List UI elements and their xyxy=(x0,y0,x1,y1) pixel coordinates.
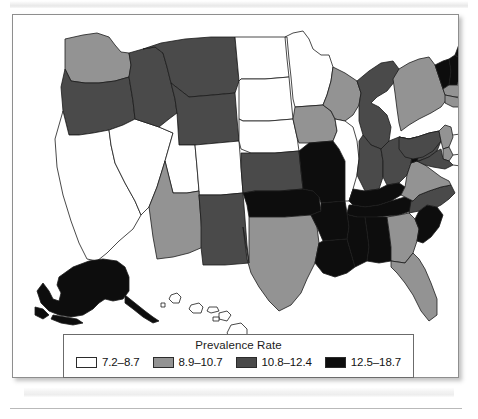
state-TX xyxy=(243,215,319,311)
state-HI-maui xyxy=(219,311,231,321)
legend-title: Prevalence Rate xyxy=(64,338,413,352)
state-FL xyxy=(391,253,437,321)
bottom-rule xyxy=(10,408,462,409)
state-ND xyxy=(235,37,289,81)
legend-swatch-light-gray xyxy=(153,357,174,368)
us-choropleth-map: Prevalence Rate 7.2–8.7 8.9–10.7 10.8–12… xyxy=(13,15,458,377)
state-KS xyxy=(241,151,303,193)
state-NJ xyxy=(439,125,453,149)
state-WA xyxy=(65,33,131,83)
state-AL xyxy=(365,217,391,263)
state-HI-lanai xyxy=(213,317,219,321)
legend-swatch-black xyxy=(325,357,346,368)
legend-swatch-dark-gray xyxy=(236,357,257,368)
caption-ghost xyxy=(24,388,454,397)
legend-label-4: 12.5–18.7 xyxy=(351,356,401,368)
legend-item-4: 12.5–18.7 xyxy=(325,356,401,368)
state-HI-kauai xyxy=(169,293,181,303)
state-AK xyxy=(37,259,129,317)
page-top-band xyxy=(10,1,468,8)
state-NE xyxy=(239,119,299,153)
state-CO xyxy=(195,141,243,195)
state-DE xyxy=(443,147,453,161)
state-OK xyxy=(243,189,321,217)
state-AK-pan xyxy=(125,295,159,323)
state-SD xyxy=(239,77,293,121)
figure-box: Prevalence Rate 7.2–8.7 8.9–10.7 10.8–12… xyxy=(12,14,459,378)
state-HI-molokai xyxy=(207,307,219,313)
state-HI-oahu xyxy=(189,303,203,313)
legend-item-3: 10.8–12.4 xyxy=(236,356,312,368)
legend-item-1: 7.2–8.7 xyxy=(76,356,140,368)
legend-label-2: 8.9–10.7 xyxy=(179,356,223,368)
state-NM xyxy=(199,193,249,265)
legend-label-1: 7.2–8.7 xyxy=(102,356,140,368)
legend-swatch-white xyxy=(76,357,97,368)
state-HI-niihau xyxy=(161,303,165,307)
map-svg xyxy=(13,15,458,377)
legend-label-3: 10.8–12.4 xyxy=(262,356,312,368)
legend-item-2: 8.9–10.7 xyxy=(153,356,223,368)
state-MN xyxy=(285,31,333,107)
legend-items: 7.2–8.7 8.9–10.7 10.8–12.4 12.5–18.7 xyxy=(64,356,413,368)
map-legend: Prevalence Rate 7.2–8.7 8.9–10.7 10.8–12… xyxy=(63,334,414,378)
